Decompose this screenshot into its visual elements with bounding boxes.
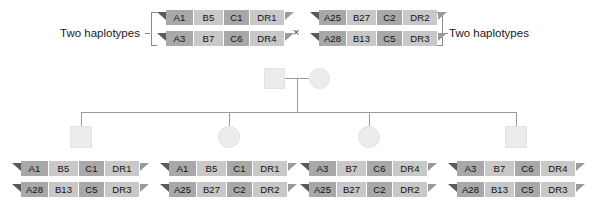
haplotype-allele-strip: A25B27C2DR2 <box>169 182 287 197</box>
haplotype-right-arrow-icon <box>288 184 297 192</box>
allele-cell-B: B27 <box>347 10 377 25</box>
allele-cell-DR: DR1 <box>105 161 139 176</box>
pedigree-haplotype-figure: Two haplotypes A1B5C1DR1A3B7C6DR4 × Two … <box>0 0 598 216</box>
child-symbol-2 <box>218 126 240 148</box>
allele-cell-C: C6 <box>367 161 393 176</box>
allele-cell-A: A28 <box>457 182 485 197</box>
allele-cell-B: B7 <box>194 31 224 46</box>
allele-cell-DR: DR2 <box>393 182 427 197</box>
allele-cell-C: C1 <box>224 10 250 25</box>
allele-cell-B: B27 <box>197 182 227 197</box>
mother-haplotypes-label: Two haplotypes <box>449 27 529 39</box>
allele-cell-A: A1 <box>169 161 197 176</box>
child-symbol-4 <box>505 126 527 148</box>
allele-cell-B: B7 <box>337 161 367 176</box>
allele-cell-B: B5 <box>49 161 79 176</box>
allele-cell-B: B13 <box>347 31 377 46</box>
mother-symbol <box>309 68 330 89</box>
haplotype-allele-strip: A28B13C5DR3 <box>21 182 139 197</box>
allele-cell-C: C1 <box>79 161 105 176</box>
allele-cell-C: C6 <box>224 31 250 46</box>
haplotype-allele-strip: A25B27C2DR2 <box>319 10 437 25</box>
haplotype-right-arrow-icon <box>140 184 149 192</box>
haplotype-left-arrow-icon <box>448 184 457 192</box>
child-drop-line-4 <box>516 112 517 126</box>
haplotype-right-arrow-icon <box>576 163 585 171</box>
allele-cell-C: C5 <box>515 182 541 197</box>
haplotype-left-arrow-icon <box>300 163 309 171</box>
haplotype-left-arrow-icon <box>157 33 166 41</box>
haplotype-allele-strip: A1B5C1DR1 <box>169 161 287 176</box>
haplotype-allele-strip: A1B5C1DR1 <box>21 161 139 176</box>
haplotype-right-arrow-icon <box>438 33 447 41</box>
haplotype-allele-strip: A28B13C5DR3 <box>319 31 437 46</box>
allele-cell-B: B27 <box>337 182 367 197</box>
allele-cell-C: C6 <box>515 161 541 176</box>
haplotype-left-arrow-icon <box>12 184 21 192</box>
allele-cell-B: B13 <box>485 182 515 197</box>
haplotype-right-arrow-icon <box>285 12 294 20</box>
allele-cell-DR: DR3 <box>403 31 437 46</box>
allele-cell-A: A28 <box>319 31 347 46</box>
allele-cell-DR: DR4 <box>250 31 284 46</box>
allele-cell-B: B5 <box>194 10 224 25</box>
allele-cell-A: A28 <box>21 182 49 197</box>
allele-cell-C: C2 <box>367 182 393 197</box>
allele-cell-B: B7 <box>485 161 515 176</box>
haplotype-allele-strip: A3B7C6DR4 <box>309 161 427 176</box>
haplotype-right-arrow-icon <box>576 184 585 192</box>
haplotype-left-arrow-icon <box>310 33 319 41</box>
allele-cell-DR: DR3 <box>541 182 575 197</box>
father-haplotypes-label: Two haplotypes <box>60 27 140 39</box>
allele-cell-A: A1 <box>166 10 194 25</box>
haplotype-allele-strip: A3B7C6DR4 <box>166 31 284 46</box>
sibship-line <box>81 112 516 113</box>
haplotype-left-arrow-icon <box>310 12 319 20</box>
haplotype-right-arrow-icon <box>438 12 447 20</box>
allele-cell-C: C5 <box>377 31 403 46</box>
allele-cell-A: A1 <box>21 161 49 176</box>
allele-cell-DR: DR4 <box>541 161 575 176</box>
haplotype-right-arrow-icon <box>140 163 149 171</box>
allele-cell-A: A3 <box>309 161 337 176</box>
allele-cell-B: B5 <box>197 161 227 176</box>
child-drop-line-1 <box>81 112 82 126</box>
allele-cell-DR: DR3 <box>105 182 139 197</box>
child-symbol-3 <box>358 126 380 148</box>
father-symbol <box>264 68 285 89</box>
child-symbol-1 <box>70 126 92 148</box>
haplotype-left-arrow-icon <box>448 163 457 171</box>
haplotype-left-arrow-icon <box>160 184 169 192</box>
haplotype-allele-strip: A25B27C2DR2 <box>309 182 427 197</box>
child-drop-line-2 <box>229 112 230 126</box>
allele-cell-DR: DR4 <box>393 161 427 176</box>
allele-cell-DR: DR2 <box>403 10 437 25</box>
allele-cell-A: A25 <box>319 10 347 25</box>
child-drop-line-3 <box>369 112 370 126</box>
allele-cell-B: B13 <box>49 182 79 197</box>
haplotype-allele-strip: A3B7C6DR4 <box>457 161 575 176</box>
haplotype-right-arrow-icon <box>428 184 437 192</box>
allele-cell-C: C5 <box>79 182 105 197</box>
allele-cell-DR: DR1 <box>250 10 284 25</box>
allele-cell-A: A25 <box>309 182 337 197</box>
allele-cell-C: C2 <box>227 182 253 197</box>
allele-cell-C: C2 <box>377 10 403 25</box>
haplotype-left-arrow-icon <box>157 12 166 20</box>
haplotype-right-arrow-icon <box>428 163 437 171</box>
descent-line <box>297 78 298 112</box>
allele-cell-DR: DR1 <box>253 161 287 176</box>
allele-cell-A: A3 <box>166 31 194 46</box>
haplotype-right-arrow-icon <box>288 163 297 171</box>
haplotype-left-arrow-icon <box>160 163 169 171</box>
haplotype-allele-strip: A28B13C5DR3 <box>457 182 575 197</box>
allele-cell-DR: DR2 <box>253 182 287 197</box>
haplotype-allele-strip: A1B5C1DR1 <box>166 10 284 25</box>
cross-symbol: × <box>293 26 299 38</box>
haplotype-left-arrow-icon <box>12 163 21 171</box>
father-bracket-tick <box>145 33 150 34</box>
allele-cell-C: C1 <box>227 161 253 176</box>
allele-cell-A: A25 <box>169 182 197 197</box>
allele-cell-A: A3 <box>457 161 485 176</box>
haplotype-left-arrow-icon <box>300 184 309 192</box>
